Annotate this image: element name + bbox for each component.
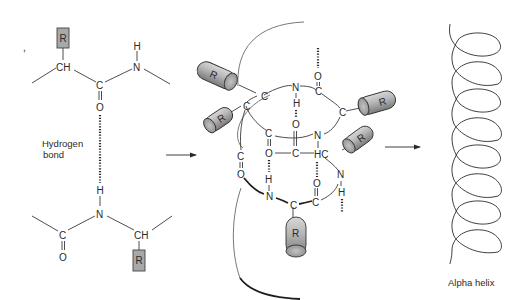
side-chain-label-upper: R bbox=[60, 33, 67, 44]
amide-nitrogen-lower: N bbox=[96, 209, 103, 220]
atom-c-right: C bbox=[339, 107, 346, 118]
atom-c-left1: C bbox=[261, 91, 268, 102]
upper-residue: R CH C N H O bbox=[32, 28, 170, 113]
bond-c-n-right-lower bbox=[321, 184, 338, 200]
bond-c-n-upper bbox=[105, 69, 132, 82]
bond-chain-out-upper bbox=[144, 69, 170, 84]
alpha-helix-coil bbox=[449, 24, 501, 264]
side-chain-label-lower: R bbox=[136, 255, 143, 266]
backbone-thick-n-c bbox=[276, 198, 288, 203]
side-chain-cylinder-4: R bbox=[340, 123, 376, 155]
bond-to-side-chain-1 bbox=[239, 85, 256, 93]
backbone-thick-lower-left bbox=[244, 178, 264, 194]
atom-c-top-right: C bbox=[315, 86, 322, 97]
amide-nitrogen-upper: N bbox=[133, 62, 140, 73]
side-chain-label-5: R bbox=[292, 228, 299, 239]
atom-c-mid1: C bbox=[265, 128, 272, 139]
bond-c-far-left bbox=[240, 110, 245, 150]
bond-chain-in-lower bbox=[32, 216, 58, 231]
side-chain-cylinder-3: R bbox=[356, 89, 397, 117]
atom-c-left2: C bbox=[243, 101, 250, 112]
atom-c-mid2: C bbox=[292, 148, 299, 159]
bond-c-c-right bbox=[322, 94, 340, 108]
atom-c-lower1: C bbox=[290, 200, 297, 211]
atom-o-lower2: O bbox=[313, 178, 321, 189]
bond-chain-in-upper bbox=[32, 68, 56, 83]
atom-hc-mid: HC bbox=[314, 149, 328, 160]
bond-ch-c-upper bbox=[74, 70, 96, 82]
bond-n-ch-lower bbox=[107, 216, 134, 230]
bond-c-n-right bbox=[324, 117, 340, 134]
hydrogen-bond-label-line1: Hydrogen bbox=[42, 138, 83, 149]
atom-c-lower2: C bbox=[312, 197, 319, 208]
atom-n-lower1: N bbox=[266, 191, 273, 202]
amide-hydrogen-lower: H bbox=[97, 185, 104, 196]
alpha-carbon-upper: CH bbox=[56, 62, 70, 73]
atom-o-mid2: O bbox=[292, 119, 300, 130]
right-panel-alpha-helix: Alpha helix bbox=[448, 24, 501, 288]
alpha-helix-caption: Alpha helix bbox=[448, 277, 495, 288]
stray-mark: , bbox=[23, 42, 26, 53]
side-chain-cylinder-1: R bbox=[194, 59, 240, 93]
left-panel-peptide-pair: , R CH C N H O Hydrogen bond H N bbox=[23, 28, 172, 271]
carbonyl-oxygen-lower: O bbox=[59, 252, 67, 263]
middle-panel-helix-backbone: C C N C O C H O C N O C HC C O H N bbox=[194, 22, 397, 299]
atom-c-far-left: C bbox=[237, 151, 244, 162]
atom-o-top-far: O bbox=[314, 71, 322, 82]
atom-n-mid: N bbox=[314, 130, 321, 141]
bond-chain-out-lower bbox=[152, 216, 172, 230]
hydrogen-bond-label-line2: bond bbox=[43, 149, 64, 160]
side-chain-cylinder-2: R bbox=[201, 104, 236, 135]
helix-guide-arc-left bbox=[233, 188, 241, 278]
amide-hydrogen-upper: H bbox=[134, 41, 141, 52]
atom-h-right-lower: H bbox=[338, 187, 345, 198]
bond-to-side-chain-3 bbox=[346, 108, 360, 111]
atom-h-top: H bbox=[293, 98, 300, 109]
carbonyl-carbon-upper: C bbox=[96, 80, 103, 91]
bond-n-c-top bbox=[300, 86, 316, 90]
alpha-helix-diagram: , R CH C N H O Hydrogen bond H N bbox=[0, 0, 526, 300]
carbonyl-oxygen-upper: O bbox=[96, 102, 104, 113]
carbonyl-carbon-lower: C bbox=[59, 230, 66, 241]
lower-residue: H N C O CH R bbox=[32, 185, 172, 271]
atom-h-lower1: H bbox=[265, 174, 272, 185]
side-chain-cylinder-5: R bbox=[286, 217, 306, 257]
atom-n-right-lower: N bbox=[337, 169, 344, 180]
bond-c-n-lower bbox=[68, 216, 95, 230]
alpha-carbon-lower: CH bbox=[134, 230, 148, 241]
atom-n-top: N bbox=[292, 82, 299, 93]
atom-o-mid1: O bbox=[265, 148, 273, 159]
helix-guide-arc-top bbox=[238, 22, 304, 86]
backbone-thick-bottom-arc bbox=[240, 278, 300, 299]
backbone-thick-c-c bbox=[299, 201, 312, 204]
